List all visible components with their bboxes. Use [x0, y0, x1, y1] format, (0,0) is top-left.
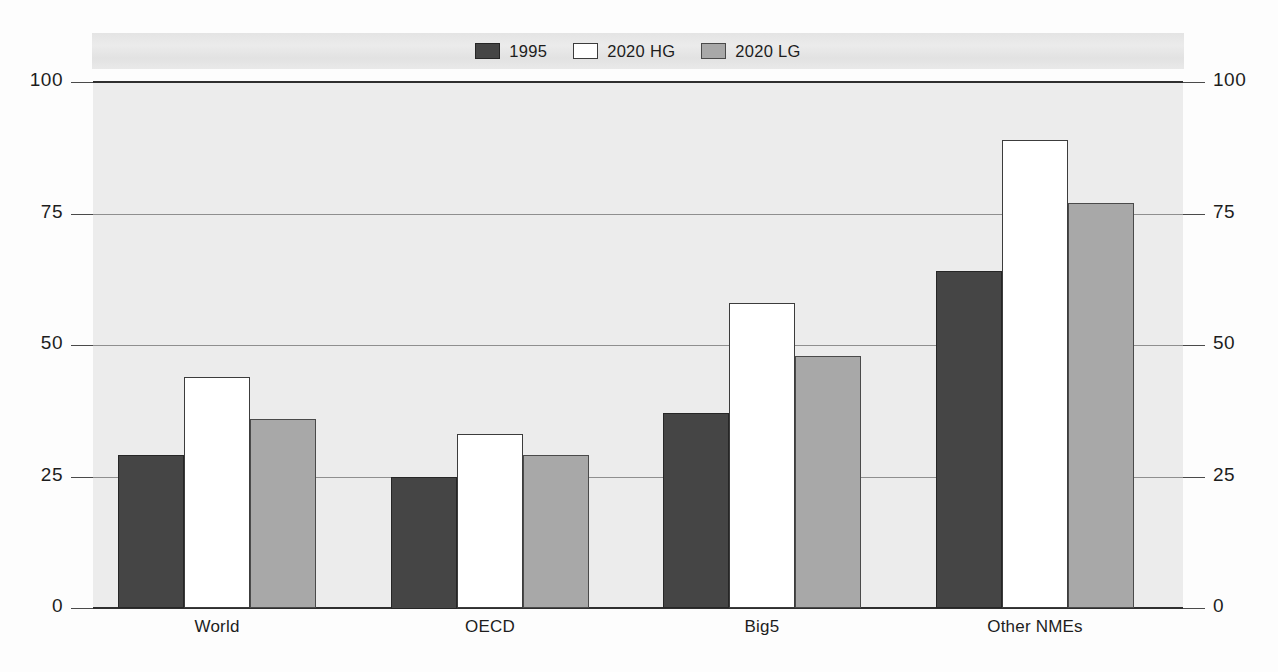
category-label-world: World [194, 617, 239, 637]
category-label-other-nmes: Other NMEs [987, 617, 1083, 637]
category-label-oecd: OECD [465, 617, 515, 637]
bar-other-nmes-2020-hg [1002, 140, 1068, 608]
category-label-big5: Big5 [745, 617, 780, 637]
bar-other-nmes-1995 [936, 271, 1002, 608]
bar-chart-figure: 1995 2020 HG 2020 LG 0255075100 02550751… [0, 0, 1278, 672]
bar-group-other-nmes [0, 0, 1278, 672]
bar-other-nmes-2020-lg [1068, 203, 1134, 608]
